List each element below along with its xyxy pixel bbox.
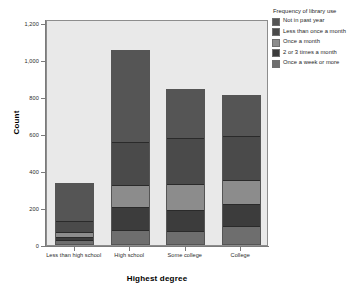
legend: Frequency of library use Not in past yea… — [272, 8, 362, 70]
x-axis-title: Highest degree — [46, 274, 268, 283]
bar-college — [222, 19, 261, 245]
bar-segment — [222, 95, 261, 136]
legend-item-label: Not in past year — [283, 17, 324, 23]
y-tick-label: 400 — [29, 169, 39, 175]
y-tick-label: 800 — [29, 95, 39, 101]
bars-layer — [47, 21, 267, 245]
legend-item[interactable]: Once a month — [272, 38, 362, 47]
x-tick-mark — [240, 247, 241, 251]
legend-swatch — [272, 18, 280, 26]
x-tick-label: College — [213, 252, 269, 258]
legend-item[interactable]: Not in past year — [272, 17, 362, 26]
bar-segment — [55, 183, 94, 221]
legend-item-label: Once a month — [283, 38, 320, 44]
y-tick-label: 0 — [36, 243, 39, 249]
bar-segment — [111, 185, 150, 207]
legend-item-label: Once a week or more — [283, 59, 339, 65]
y-tick-mark — [41, 98, 46, 99]
bar-segment — [111, 142, 150, 185]
y-tick-mark — [41, 209, 46, 210]
bar-segment — [166, 89, 205, 138]
bar-segment — [55, 237, 94, 241]
stacked-bar-chart: 02004006008001,0001,200 Count Less than … — [0, 0, 363, 294]
bar-segment — [111, 50, 150, 143]
legend-item[interactable]: Once a week or more — [272, 59, 362, 68]
x-tick-label: Some college — [157, 252, 213, 258]
bar-segment — [55, 232, 94, 237]
x-tick-mark — [74, 247, 75, 251]
bar-segment — [111, 230, 150, 245]
legend-item[interactable]: Less than once a month — [272, 28, 362, 37]
bar-segment — [111, 207, 150, 230]
y-axis-line — [45, 20, 46, 247]
y-axis-title: Count — [12, 93, 21, 153]
y-tick-mark — [41, 172, 46, 173]
legend-title: Frequency of library use — [273, 8, 362, 14]
x-tick-label: Less than high school — [46, 252, 102, 258]
y-tick-label: 600 — [29, 132, 39, 138]
bar-segment — [55, 221, 94, 232]
y-tick-label: 1,000 — [25, 58, 40, 64]
bar-segment — [222, 204, 261, 225]
bar-segment — [166, 138, 205, 184]
bar-segment — [55, 240, 94, 245]
legend-swatch — [272, 39, 280, 47]
legend-swatch — [272, 28, 280, 36]
plot-area — [46, 20, 268, 246]
bar-segment — [222, 136, 261, 180]
bar-some-college — [166, 19, 205, 245]
legend-items: Not in past yearLess than once a monthOn… — [272, 17, 362, 68]
bar-segment — [166, 184, 205, 210]
legend-item-label: Less than once a month — [283, 28, 346, 34]
legend-swatch — [272, 49, 280, 57]
x-tick-label: High school — [102, 252, 158, 258]
y-tick-label: 1,200 — [25, 21, 40, 27]
x-tick-mark — [185, 247, 186, 251]
bar-segment — [222, 180, 261, 204]
bar-less-than-high-school — [55, 19, 94, 245]
y-tick-mark — [41, 24, 46, 25]
bar-segment — [166, 210, 205, 231]
y-tick-mark — [41, 61, 46, 62]
y-tick-label: 200 — [29, 206, 39, 212]
legend-item[interactable]: 2 or 3 times a month — [272, 49, 362, 58]
x-axis-line — [45, 246, 269, 247]
y-tick-mark — [41, 135, 46, 136]
legend-item-label: 2 or 3 times a month — [283, 49, 337, 55]
bar-high-school — [111, 19, 150, 245]
x-tick-mark — [129, 247, 130, 251]
legend-swatch — [272, 60, 280, 68]
bar-segment — [166, 231, 205, 245]
bar-segment — [222, 226, 261, 245]
